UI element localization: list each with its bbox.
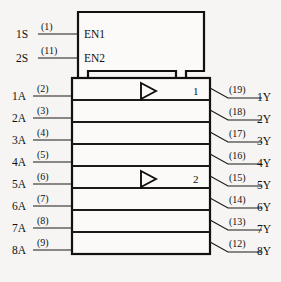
output-pin-number: (15) xyxy=(229,172,246,184)
logic-symbol-diagram: 1S (1) EN1 2S (11) EN2 1A (2) (19) 1Y 1 … xyxy=(0,0,281,282)
input-label: 1A xyxy=(12,90,27,102)
output-pin-number: (14) xyxy=(229,194,246,206)
output-label: 2Y xyxy=(257,113,272,125)
input-pin-number: (9) xyxy=(37,237,49,249)
input-pin-number: (3) xyxy=(37,105,49,117)
output-pin-number: (16) xyxy=(229,150,246,162)
input-pin-number: (5) xyxy=(37,149,49,161)
output-label: 6Y xyxy=(257,201,272,213)
enable-internal-EN2: EN2 xyxy=(84,52,105,64)
enable-pin-1: (1) xyxy=(41,21,53,33)
output-pin-number: (19) xyxy=(229,84,246,96)
output-pin-number: (12) xyxy=(229,238,246,250)
input-label: 6A xyxy=(12,200,27,212)
enable-pin-11: (11) xyxy=(41,45,57,57)
input-label: 2A xyxy=(12,112,27,124)
input-pin-number: (2) xyxy=(37,83,49,95)
input-pin-number: (6) xyxy=(37,171,49,183)
enable-signal-1S: 1S xyxy=(16,28,28,40)
group-number: 2 xyxy=(193,173,199,185)
input-label: 4A xyxy=(12,156,27,168)
input-pin-number: (8) xyxy=(37,215,49,227)
output-label: 3Y xyxy=(257,135,272,147)
input-label: 8A xyxy=(12,244,27,256)
output-pin-number: (13) xyxy=(229,216,246,228)
input-pin-number: (7) xyxy=(37,193,49,205)
logic-symbol-canvas: 1S (1) EN1 2S (11) EN2 1A (2) (19) 1Y 1 … xyxy=(0,0,281,282)
input-pin-number: (4) xyxy=(37,127,49,139)
group-number: 1 xyxy=(193,85,199,97)
output-pin-number: (17) xyxy=(229,128,246,140)
output-label: 5Y xyxy=(257,179,272,191)
input-label: 7A xyxy=(12,222,27,234)
enable-internal-EN1: EN1 xyxy=(84,28,105,40)
input-label: 5A xyxy=(12,178,27,190)
control-block xyxy=(78,12,204,78)
output-pin-number: (18) xyxy=(229,106,246,118)
enable-signal-2S: 2S xyxy=(16,52,28,64)
output-label: 1Y xyxy=(257,91,272,103)
output-label: 8Y xyxy=(257,245,272,257)
output-label: 4Y xyxy=(257,157,272,169)
output-label: 7Y xyxy=(257,223,272,235)
input-label: 3A xyxy=(12,134,27,146)
